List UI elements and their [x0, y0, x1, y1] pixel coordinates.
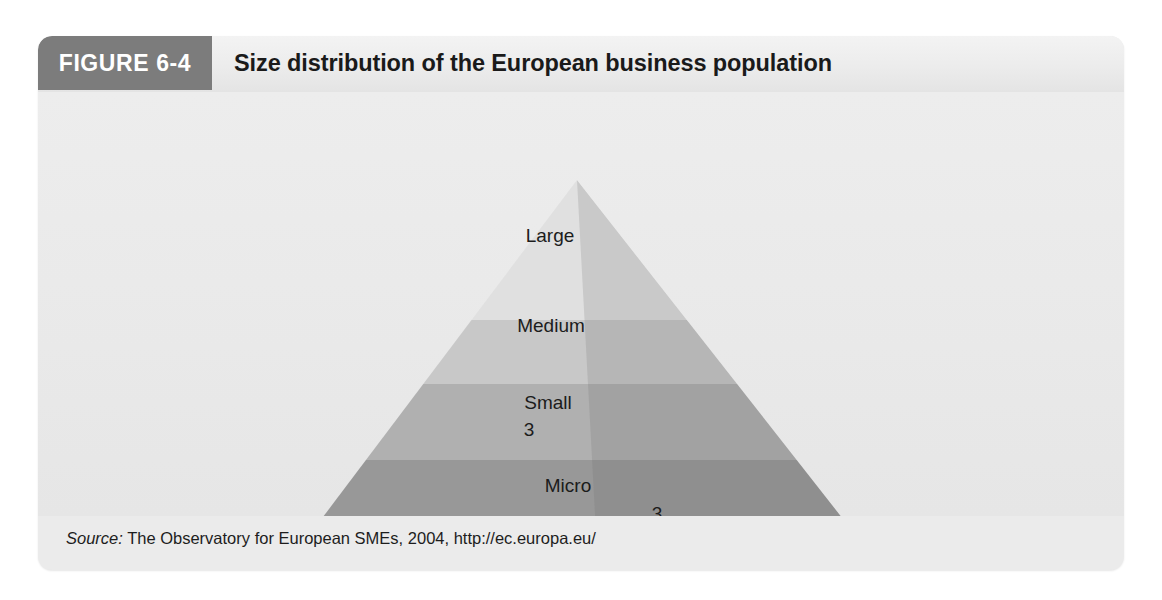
figure-title: Size distribution of the European busine…: [234, 36, 832, 90]
pyramid-tier-micro-label: Micro: [545, 475, 591, 496]
source-text: The Observatory for European SMEs, 2004,…: [123, 529, 596, 547]
source-label: Source:: [66, 529, 123, 547]
pyramid-tier-large-label: Large: [526, 225, 575, 246]
source-line: Source: The Observatory for European SME…: [66, 529, 596, 548]
pyramid-tier-small-band: [38, 384, 1124, 460]
figure-card: FIGURE 6-4 Size distribution of the Euro…: [38, 36, 1124, 570]
figure-header: FIGURE 6-4 Size distribution of the Euro…: [38, 36, 1124, 92]
figure-number-badge: FIGURE 6-4: [38, 36, 212, 90]
pyramid-tier-small-label: Small: [524, 392, 572, 413]
pyramid-tier-small-value: 3: [524, 419, 535, 440]
pyramid-tier-medium-label: Medium: [517, 315, 585, 336]
pyramid-chart: Large Medium Small 3 Micro 3: [38, 92, 1124, 516]
pyramid-right-face-shadow: [577, 180, 883, 516]
pyramid-tier-micro-value: 3: [652, 503, 663, 516]
pyramid-diagram: Large Medium Small 3 Micro 3: [38, 92, 1124, 516]
figure-number-label: FIGURE 6-4: [59, 50, 192, 77]
